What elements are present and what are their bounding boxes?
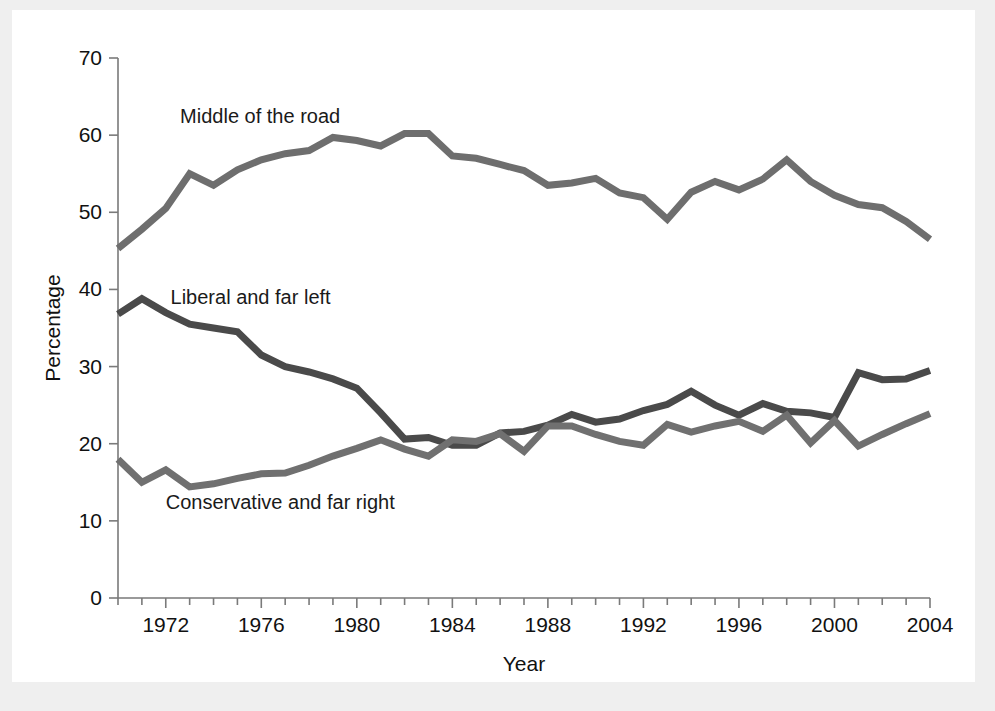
series-label-liberal-and-far-left: Liberal and far left (171, 286, 332, 308)
x-tick-label: 1992 (620, 613, 667, 636)
y-tick-label: 0 (90, 586, 102, 609)
line-chart: Middle of the roadLiberal and far leftCo… (0, 0, 995, 711)
y-tick-label: 30 (79, 355, 102, 378)
y-tick-label: 40 (79, 277, 102, 300)
series-line-conservative-and-far-right (118, 414, 930, 487)
y-tick-label: 50 (79, 200, 102, 223)
x-axis-title: Year (503, 652, 545, 675)
y-tick-label: 10 (79, 509, 102, 532)
y-tick-label: 60 (79, 123, 102, 146)
series-lines (118, 134, 930, 487)
series-line-liberal-and-far-left (118, 299, 930, 446)
screenshot-page: Middle of the roadLiberal and far leftCo… (0, 0, 995, 711)
x-tick-label: 1972 (142, 613, 189, 636)
x-tick-label: 1996 (716, 613, 763, 636)
x-tick-label: 2000 (811, 613, 858, 636)
axis-spine (118, 58, 930, 598)
x-tick-label: 1980 (333, 613, 380, 636)
series-label-conservative-and-far-right: Conservative and far right (166, 491, 395, 513)
y-axis-title: Percentage (41, 274, 64, 381)
x-tick-label: 1984 (429, 613, 476, 636)
y-tick-label: 20 (79, 432, 102, 455)
series-label-middle-of-the-road: Middle of the road (180, 105, 340, 127)
x-tick-label: 1988 (525, 613, 572, 636)
series-line-middle-of-the-road (118, 134, 930, 249)
x-tick-label: 1976 (238, 613, 285, 636)
tick-labels: 0102030405060701972197619801984198819921… (79, 46, 954, 636)
series-labels: Middle of the roadLiberal and far leftCo… (166, 105, 395, 513)
x-tick-label: 2004 (907, 613, 954, 636)
y-tick-label: 70 (79, 46, 102, 69)
